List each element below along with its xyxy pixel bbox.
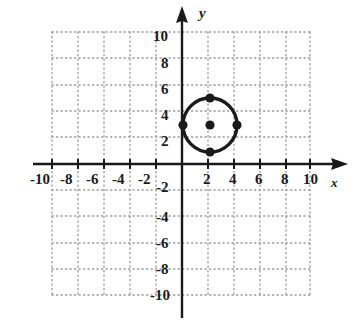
y-tick-label-2: 2 [161, 134, 169, 149]
y-tick-label-neg-4: -4 [156, 210, 169, 225]
x-tick-label-10: 10 [303, 172, 318, 187]
y-tick-label-neg-10: -10 [150, 288, 170, 303]
y-tick-label-4: 4 [161, 108, 169, 123]
x-tick-label-neg-10: -10 [30, 172, 50, 187]
y-tick-label-neg-2: -2 [156, 180, 169, 195]
x-tick-label-neg-8: -8 [60, 172, 73, 187]
point-right [232, 120, 241, 129]
y-axis-name: y [199, 6, 206, 21]
y-tick-label-neg-8: -8 [156, 262, 169, 277]
x-tick-label-2: 2 [203, 172, 211, 187]
x-tick-label-6: 6 [255, 172, 263, 187]
x-axis-name: x [331, 176, 338, 189]
x-tick-label-4: 4 [229, 172, 237, 187]
x-tick-label-8: 8 [281, 172, 289, 187]
x-tick-label-neg-6: -6 [86, 172, 99, 187]
x-axis [33, 158, 348, 170]
y-tick-label-6: 6 [161, 82, 169, 97]
y-tick-label-8: 8 [161, 56, 169, 71]
plotted-points [178, 93, 241, 156]
y-tick-label-10: 10 [153, 29, 168, 44]
x-tick-label-neg-2: -2 [138, 172, 151, 187]
point-center [205, 120, 214, 129]
y-axis [176, 6, 188, 318]
coordinate-graph-figure: -10 -8 -6 -4 -2 2 4 6 8 10 10 8 6 4 2 -2… [0, 0, 352, 324]
y-tick-label-neg-6: -6 [156, 236, 169, 251]
x-tick-label-neg-4: -4 [112, 172, 125, 187]
point-bottom [205, 147, 214, 156]
point-left [178, 120, 187, 129]
point-top [205, 93, 214, 102]
plot-canvas [0, 0, 352, 324]
